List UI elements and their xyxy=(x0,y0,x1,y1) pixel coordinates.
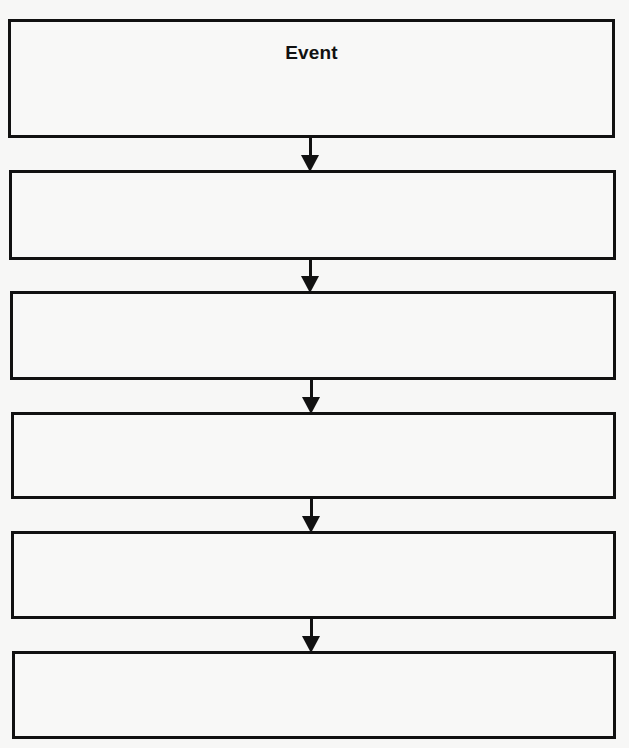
flow-box-step-3 xyxy=(10,291,616,380)
arrow-shaft xyxy=(310,378,313,399)
arrow-down-icon xyxy=(301,136,319,172)
flow-box-event: Event xyxy=(8,19,615,138)
box-title: Event xyxy=(11,42,612,64)
arrow-shaft xyxy=(309,258,312,278)
arrow-shaft xyxy=(310,617,313,638)
flow-box-step-4 xyxy=(11,412,616,499)
arrow-down-icon xyxy=(301,258,319,293)
arrow-shaft xyxy=(310,497,313,518)
arrow-down-icon xyxy=(302,378,320,414)
arrow-down-icon xyxy=(302,497,320,533)
flow-box-step-6 xyxy=(12,651,616,739)
arrow-down-icon xyxy=(302,617,320,653)
flow-box-step-5 xyxy=(11,531,616,619)
flow-box-step-2 xyxy=(9,170,616,260)
